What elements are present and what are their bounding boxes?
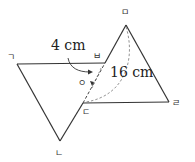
vertex-label-mieum: ㅁ <box>121 7 129 17</box>
measurement-16cm: 16 cm <box>110 64 153 80</box>
edge-nieun-digeut <box>60 103 83 141</box>
vertex-label-ieung: ㅇ <box>78 78 86 88</box>
vertex-label-rieul: ㄹ <box>172 98 180 108</box>
geometry-diagram: ㄱ ㄴ ㄷ ㄹ ㅁ ㅂ ㅇ 4 cm 16 cm <box>0 0 195 162</box>
vertex-label-nieun: ㄴ <box>55 148 63 158</box>
edge-digeut-rieul <box>83 102 169 103</box>
vertex-label-digeut: ㄷ <box>82 107 90 117</box>
edge-mieum-bieup <box>105 25 126 63</box>
arrowhead-icon <box>88 70 93 75</box>
vertex-label-bieup: ㅂ <box>93 51 101 61</box>
edge-giyeok-bieup <box>17 63 105 64</box>
edge-giyeok-nieun <box>17 64 60 141</box>
arrow-4cm <box>68 58 90 72</box>
vertex-label-giyeok: ㄱ <box>7 52 15 62</box>
measurement-4cm: 4 cm <box>51 37 85 53</box>
